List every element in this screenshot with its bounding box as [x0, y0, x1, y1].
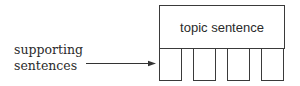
supporting-sentence-leg-4 — [261, 48, 284, 81]
supporting-sentence-leg-1 — [159, 48, 182, 81]
topic-sentence-box: topic sentence — [159, 5, 285, 49]
supporting-sentence-leg-3 — [227, 48, 250, 81]
supporting-sentence-leg-2 — [193, 48, 216, 81]
topic-sentence-label: topic sentence — [180, 20, 264, 35]
